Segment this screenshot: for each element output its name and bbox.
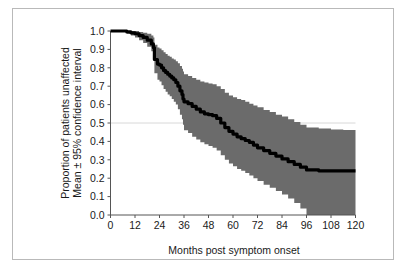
x-tick-label-24: 24 [154,219,166,231]
x-tick-label-120: 120 [347,219,365,231]
y-tick-label-0.6: 0.6 [90,98,105,110]
y-tick-label-0.7: 0.7 [90,80,105,92]
x-tick-label-84: 84 [276,219,288,231]
y-axis-title-line-1: Proportion of patients unaffected [59,47,71,199]
x-tick-label-12: 12 [129,219,141,231]
x-tick-label-48: 48 [203,219,215,231]
x-axis-tick-labels: 01224364860728496108120 [108,219,365,231]
y-tick-label-0.0: 0.0 [90,209,105,221]
y-tick-label-0.1: 0.1 [90,190,105,202]
y-axis-title-line-2: Mean ± 95% confidence interval [71,48,83,197]
x-tick-label-60: 60 [227,219,239,231]
x-axis-title: Months post symptom onset [168,244,299,256]
y-tick-label-0.2: 0.2 [90,172,105,184]
survival-curve-chart: 01224364860728496108120 0.00.10.20.30.40… [0,0,407,270]
x-tick-label-96: 96 [301,219,313,231]
x-tick-label-36: 36 [178,219,190,231]
y-tick-label-0.9: 0.9 [90,43,105,55]
y-tick-label-1.0: 1.0 [90,25,105,37]
y-axis-tick-labels: 0.00.10.20.30.40.50.60.70.80.91.0 [90,25,105,221]
x-tick-label-72: 72 [252,219,264,231]
y-tick-label-0.4: 0.4 [90,135,105,147]
x-tick-label-108: 108 [322,219,340,231]
y-tick-label-0.5: 0.5 [90,117,105,129]
x-tick-label-0: 0 [108,219,114,231]
y-tick-label-0.8: 0.8 [90,62,105,74]
figure-root: 01224364860728496108120 0.00.10.20.30.40… [0,0,407,270]
y-tick-label-0.3: 0.3 [90,154,105,166]
